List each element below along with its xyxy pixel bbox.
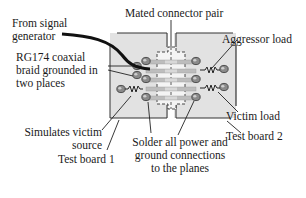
label-coax-braid: RG174 coaxial braid grounded in two plac… xyxy=(16,51,98,90)
label-mated-connector-pair: Mated connector pair xyxy=(125,7,223,20)
label-solder-note: Solder all power and ground connections … xyxy=(120,136,240,175)
label-from-signal-generator: From signal generator xyxy=(12,17,67,43)
label-test-board-1: Test board 1 xyxy=(58,153,115,166)
label-aggressor-load: Aggressor load xyxy=(222,33,292,46)
label-victim-load: Victim load xyxy=(226,110,280,123)
diagram-canvas: From signal generator Mated connector pa… xyxy=(0,0,306,198)
label-simulates-victim-source: Simulates victim source xyxy=(18,126,102,152)
